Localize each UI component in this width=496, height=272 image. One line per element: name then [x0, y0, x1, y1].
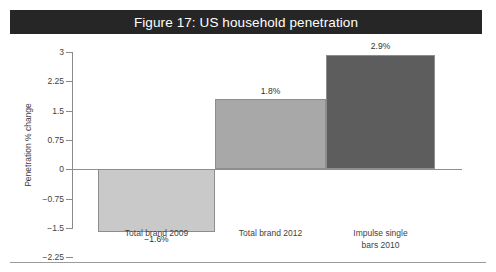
x-category-label-2: Impulse single bars 2010: [326, 228, 435, 251]
y-tick-label: 0.75: [32, 135, 64, 145]
page-title: Figure 17: US household penetration: [134, 15, 358, 30]
x-category-label-1: Total brand 2012: [215, 228, 326, 240]
bar-value-label: 1.8%: [215, 86, 326, 96]
y-tick-label: 2.25: [32, 76, 64, 86]
y-tick-mark: [66, 228, 73, 229]
bar-value-label: 2.9%: [326, 41, 435, 51]
x-category-label-2-line-1: Impulse single: [326, 228, 435, 240]
y-tick-label: 0: [32, 164, 64, 174]
y-tick-mark: [66, 52, 73, 53]
y-axis-label: Penetration % change: [23, 75, 33, 215]
y-tick-label: 3: [32, 47, 64, 57]
bottom-divider: [10, 262, 486, 263]
figure-container: Figure 17: US household penetration 3 2.…: [0, 0, 496, 272]
y-tick-mark: [66, 81, 73, 82]
y-tick-label: −1.5: [32, 223, 64, 233]
bar-impulse-single-bars-2010: [326, 55, 435, 169]
y-tick-mark: [66, 257, 73, 258]
y-tick-mark: [66, 111, 73, 112]
y-tick-label: 1.5: [32, 106, 64, 116]
y-tick-mark: [66, 140, 73, 141]
figure-title-bar: Figure 17: US household penetration: [10, 10, 482, 34]
y-tick-label: −2.25: [32, 252, 64, 262]
x-category-label-0: Total brand 2009: [98, 228, 215, 240]
y-tick-label: −0.75: [32, 194, 64, 204]
bar-total-brand-2009: [98, 169, 215, 232]
y-tick-mark: [66, 199, 73, 200]
bar-total-brand-2012: [215, 99, 326, 169]
x-category-label-2-line-2: bars 2010: [326, 240, 435, 252]
chart-plot-area: 3 2.25 1.5 0.75 0 −0.75 −1.5 −2.25 Penet…: [0, 34, 496, 272]
